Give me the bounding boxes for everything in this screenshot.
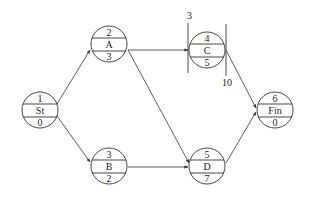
node-st: 1 St 0 xyxy=(22,92,58,128)
node-a: 2 A 3 xyxy=(91,26,127,62)
node-c-bottom: 5 xyxy=(205,57,210,68)
node-fin-label: Fin xyxy=(268,105,281,116)
edge-st-b xyxy=(57,116,90,162)
node-a-top: 2 xyxy=(107,27,112,38)
node-a-bottom: 3 xyxy=(107,51,112,62)
node-d-label: D xyxy=(203,161,210,172)
window-end-label: 10 xyxy=(222,77,232,88)
network-diagram: 3 10 1 St 0 2 A 3 3 B 2 4 C 5 xyxy=(0,0,310,202)
node-c-top: 4 xyxy=(205,33,210,44)
node-a-label: A xyxy=(105,39,113,50)
edge-a-d xyxy=(128,50,189,163)
node-b-bottom: 2 xyxy=(107,173,112,184)
node-fin: 6 Fin 0 xyxy=(257,92,293,128)
node-d-bottom: 7 xyxy=(205,173,210,184)
node-st-top: 1 xyxy=(38,93,43,104)
node-b-top: 3 xyxy=(107,149,112,160)
node-d-top: 5 xyxy=(205,149,210,160)
edge-d-fin xyxy=(226,112,256,163)
node-st-label: St xyxy=(36,105,45,116)
window-start-label: 3 xyxy=(187,10,192,21)
node-st-bottom: 0 xyxy=(38,117,43,128)
node-b-label: B xyxy=(106,161,113,172)
node-d: 5 D 7 xyxy=(189,148,225,184)
node-c-label: C xyxy=(204,45,211,56)
node-b: 3 B 2 xyxy=(91,148,127,184)
edge-st-a xyxy=(57,50,90,104)
node-fin-top: 6 xyxy=(273,93,278,104)
node-fin-bottom: 0 xyxy=(273,117,278,128)
node-c: 4 C 5 xyxy=(189,32,225,68)
